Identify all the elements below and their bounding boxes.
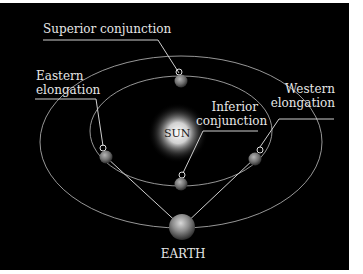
label-western-line1: Western [270, 82, 335, 96]
planet-superior-icon [175, 75, 188, 88]
label-western-line2: elongation [270, 96, 335, 110]
label-inferior-line2: conjunction [196, 114, 258, 128]
label-eastern-line2: elongation [36, 83, 100, 97]
earth-icon [169, 214, 195, 240]
label-western-elongation: Western elongation [270, 82, 335, 110]
label-sun: SUN [164, 127, 190, 141]
planet-western-icon [249, 153, 262, 166]
label-earth: EARTH [160, 247, 206, 261]
planet-eastern-icon [100, 151, 113, 164]
label-superior-conjunction: Superior conjunction [43, 22, 171, 36]
label-eastern-line1: Eastern [36, 69, 100, 83]
label-inferior-conjunction: Inferior conjunction [196, 100, 258, 128]
planet-inferior-icon [175, 178, 188, 191]
label-eastern-elongation: Eastern elongation [36, 69, 100, 97]
label-inferior-line1: Inferior [196, 100, 258, 114]
